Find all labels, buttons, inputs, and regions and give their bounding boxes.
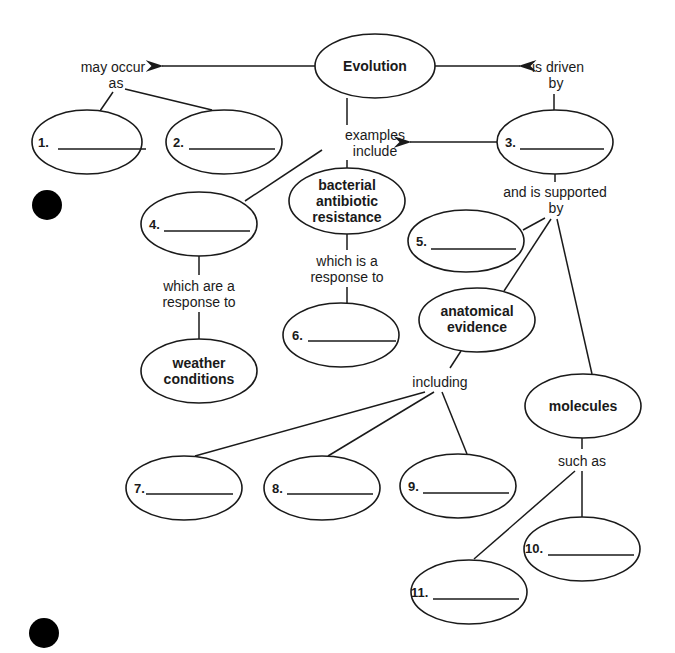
blank-node-2[interactable]: 2. [166,110,282,174]
concept-map: Evolution may occur as is driven by exam… [0,0,675,653]
blank-3-number: 3. [505,135,516,150]
blank-8-number: 8. [272,481,283,496]
blank-10-number: 10. [525,541,543,556]
blank-4-number: 4. [149,217,160,232]
node-bacterial-line2: antibiotic [316,193,378,209]
link-including: including [412,374,467,390]
line-anatomical-including [450,351,461,368]
binder-hole-top [32,190,62,220]
blank-node-1[interactable]: 1. [32,110,146,174]
blank-node-11[interactable]: 11. [411,560,527,624]
blank-1-number: 1. [38,135,49,150]
link-examples-line1: examples [345,127,405,143]
line-to-blank-8 [328,392,434,456]
binder-hole-bottom [29,618,59,648]
link-which-is-line1: which is a [315,253,378,269]
link-is-driven-line2: by [549,75,564,91]
link-which-is-line2: response to [310,269,383,285]
blank-9-number: 9. [408,479,419,494]
link-may-occur-line1: may occur [81,59,146,75]
link-is-driven-line1: is driven [532,59,584,75]
blank-node-4[interactable]: 4. [141,192,257,256]
node-anatomical-line1: anatomical [440,303,513,319]
link-supported-line1: and is supported [503,184,607,200]
node-molecules: molecules [525,374,641,438]
link-which-are-line2: response to [162,294,235,310]
node-evolution: Evolution [315,34,435,98]
line-to-blank-2 [125,89,212,110]
line-to-molecules [557,219,592,374]
blank-node-6[interactable]: 6. [283,303,399,367]
blank-5-number: 5. [416,234,427,249]
node-bacterial-line1: bacterial [318,177,376,193]
blank-node-9[interactable]: 9. [400,454,516,518]
blank-node-5[interactable]: 5. [408,210,524,272]
line-to-blank-1 [100,92,113,111]
node-anatomical-line2: evidence [447,319,507,335]
link-such-as: such as [558,453,606,469]
node-molecules-label: molecules [549,398,618,414]
node-evolution-label: Evolution [343,58,407,74]
blank-node-10[interactable]: 10. [524,517,640,581]
link-supported-line2: by [549,200,564,216]
link-may-occur-line2: as [109,75,124,91]
link-examples-line2: include [353,143,398,159]
blank-7-number: 7. [134,481,145,496]
node-weather-line1: weather [172,355,226,371]
line-to-blank-9 [442,392,467,454]
node-bacterial-line3: resistance [312,209,381,225]
line-to-blank-7 [195,392,425,456]
blank-node-3[interactable]: 3. [497,110,613,174]
node-weather-line2: conditions [164,371,235,387]
node-bacterial-antibiotic-resistance: bacterial antibiotic resistance [289,168,405,234]
blank-node-7[interactable]: 7. [126,456,242,520]
node-anatomical-evidence: anatomical evidence [419,288,535,352]
blank-2-number: 2. [173,135,184,150]
node-weather-conditions: weather conditions [141,339,257,403]
blank-node-8[interactable]: 8. [264,456,380,520]
line-to-blank-5 [523,218,545,230]
blank-11-number: 11. [411,585,428,600]
link-which-are-line1: which are a [162,278,235,294]
blank-6-number: 6. [292,328,303,343]
